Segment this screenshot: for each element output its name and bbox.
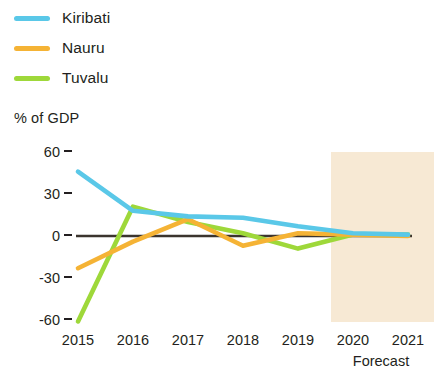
y-tick-0: 0 — [0, 228, 72, 244]
x-tick-2021: 2021 — [392, 332, 424, 348]
x-tick-2018: 2018 — [227, 332, 259, 348]
y-tick-label: 0 — [52, 228, 60, 244]
forecast-label: Forecast — [353, 353, 409, 369]
y-tick-30: 30 — [0, 186, 72, 202]
x-tick-2017: 2017 — [172, 332, 204, 348]
y-tick-label: 60 — [44, 144, 60, 160]
plot-area: 60300-30-60 2015201620172018201920202021… — [0, 0, 434, 377]
y-tick-mark — [64, 276, 72, 278]
y-tick-neg30: -30 — [0, 270, 72, 286]
y-tick-label: -30 — [39, 270, 60, 286]
x-tick-2016: 2016 — [117, 332, 149, 348]
x-tick-2020: 2020 — [337, 332, 369, 348]
y-tick-label: -60 — [39, 312, 60, 328]
y-tick-neg60: -60 — [0, 312, 72, 328]
y-tick-mark — [64, 318, 72, 320]
y-tick-60: 60 — [0, 144, 72, 160]
y-tick-mark — [64, 234, 72, 236]
y-tick-mark — [64, 150, 72, 152]
x-tick-2019: 2019 — [282, 332, 314, 348]
gdp-line-chart: Kiribati Nauru Tuvalu % of GDP 60300-30-… — [0, 0, 434, 377]
y-tick-mark — [64, 192, 72, 194]
y-tick-label: 30 — [44, 186, 60, 202]
x-tick-2015: 2015 — [62, 332, 94, 348]
